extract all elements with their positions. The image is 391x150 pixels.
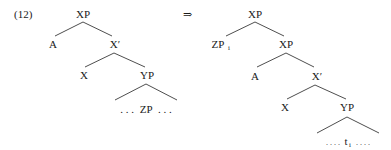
left-branch-xp-to-a (55, 22, 83, 36)
left-xbar-label: X′ (110, 38, 120, 50)
right-branch-xbar-to-yp (315, 85, 346, 99)
right-xbar-label: X′ (312, 70, 322, 82)
left-branch-xp-to-xbar (83, 22, 112, 36)
left-branch-xbar-to-yp (114, 53, 145, 67)
right-branch-xp-to-xbar (286, 53, 314, 67)
right-branch-xbar-to-x (287, 85, 315, 99)
left-triangle-right-edge (146, 84, 177, 100)
right-branch-root-to-zp (226, 22, 255, 36)
right-branch-xp-to-a (257, 53, 286, 67)
right-trace-label: t (344, 135, 347, 147)
right-branch-root-to-xp (255, 22, 284, 36)
left-tree: XP A X′ X YP . . . ZP . . . (49, 8, 177, 115)
right-root-xp-label: XP (248, 8, 262, 20)
right-triangle-right-edge (347, 117, 379, 133)
right-ellipsis-right: . . . . (356, 138, 370, 147)
left-triangle-left-edge (115, 84, 146, 100)
right-head-x-label: X (281, 101, 289, 113)
syntax-tree-figure: (12) XP A X′ X YP . . . ZP . . . (0, 0, 391, 150)
derivation-arrow-icon: ⇒ (183, 8, 192, 20)
left-triangle-contents: . . . ZP . . . (120, 103, 172, 115)
right-tree: XP ZP i XP A X′ X YP (212, 8, 379, 149)
right-inner-xp-label: XP (279, 38, 293, 50)
left-head-x-label: X (80, 69, 88, 81)
left-complement-yp-label: YP (140, 69, 154, 81)
left-ellipsis-right: . . . (158, 103, 172, 115)
right-triangle-left-edge (317, 117, 347, 133)
tree-diagram-canvas: (12) XP A X′ X YP . . . ZP . . . (0, 0, 391, 150)
left-root-xp-label: XP (76, 8, 90, 20)
right-complement-yp-label: YP (340, 101, 354, 113)
right-ellipsis-left: . . . . (326, 138, 340, 147)
left-ellipsis-left: . . . (120, 103, 134, 115)
right-moved-zp-label: ZP (212, 38, 225, 50)
right-moved-zp-text: ZP (212, 38, 225, 50)
left-spec-a-label: A (49, 38, 57, 50)
example-number: (12) (14, 8, 33, 21)
left-branch-xbar-to-x (85, 53, 114, 67)
right-trace-index: i (349, 141, 351, 149)
left-zp-label: ZP (140, 103, 153, 115)
right-moved-zp-index: i (228, 44, 230, 52)
right-spec-a-label: A (251, 70, 259, 82)
